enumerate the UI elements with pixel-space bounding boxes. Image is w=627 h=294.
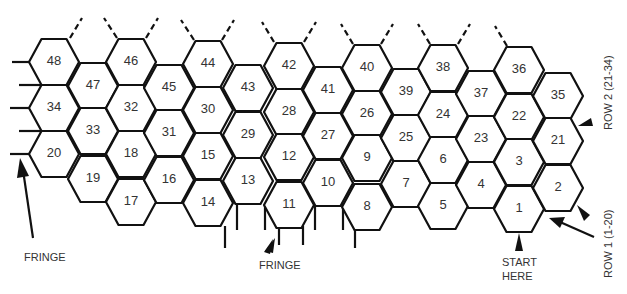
hexagon-number: 41 <box>321 81 335 96</box>
hexagon-number: 24 <box>436 106 450 121</box>
hexagon-29: 29 <box>223 112 273 158</box>
hexagon-number: 43 <box>241 79 255 94</box>
hexagon-36: 36 <box>494 47 544 93</box>
hexagon-number: 45 <box>162 79 176 94</box>
hexagon-number: 40 <box>360 59 374 74</box>
hexagon-layout-diagram: 4834204733194632181745311644301514432913… <box>0 0 627 294</box>
hexagon-number: 42 <box>282 57 296 72</box>
hexagon-number: 9 <box>363 149 370 164</box>
hexagon-number: 19 <box>86 170 100 185</box>
hexagon-number: 25 <box>399 129 413 144</box>
hexagon-number: 17 <box>124 193 138 208</box>
start-here-label-line2: HERE <box>502 270 533 282</box>
hexagon-number: 34 <box>47 99 61 114</box>
hexagon-number: 4 <box>477 176 484 191</box>
hexagon-number: 32 <box>124 99 138 114</box>
hexagon-number: 48 <box>47 53 61 68</box>
hexagon-number: 12 <box>282 148 296 163</box>
hexagon-44: 44 <box>183 41 233 87</box>
hexagon-number: 44 <box>201 55 215 70</box>
hexagon-number: 13 <box>241 172 255 187</box>
hexagon-number: 31 <box>162 124 176 139</box>
hexagon-number: 7 <box>402 175 409 190</box>
hexagon-number: 36 <box>512 61 526 76</box>
row1-marker <box>577 205 590 221</box>
hexagon-number: 14 <box>201 194 215 209</box>
row2-label: ROW 2 (21-34) <box>602 55 614 130</box>
hexagon-number: 3 <box>515 153 522 168</box>
hexagon-21: 21 <box>533 118 583 164</box>
hexagon-number: 28 <box>282 103 296 118</box>
hexagon-number: 39 <box>399 83 413 98</box>
hexagon-number: 11 <box>282 196 296 211</box>
row1-arrow <box>549 217 594 237</box>
hexagon-number: 33 <box>86 122 100 137</box>
hexagon-2: 2 <box>533 165 583 211</box>
hexagon-number: 8 <box>363 198 370 213</box>
fringe-left-label: FRINGE <box>24 251 66 263</box>
fringe-left-arrow <box>17 158 33 238</box>
start-here-label-line1: START <box>502 256 537 268</box>
hexagon-number: 46 <box>124 53 138 68</box>
hexagon-number: 26 <box>360 105 374 120</box>
hexagon-number: 37 <box>474 85 488 100</box>
hexagon-number: 15 <box>201 147 215 162</box>
hexagon-number: 10 <box>321 174 335 189</box>
hexagon-number: 47 <box>86 77 100 92</box>
row1-label: ROW 1 (1-20) <box>602 210 614 278</box>
hexagon-number: 23 <box>474 130 488 145</box>
hexagon-number: 16 <box>162 171 176 186</box>
hexagon-number: 38 <box>436 59 450 74</box>
hexagon-number: 35 <box>551 87 565 102</box>
hexagon-13: 13 <box>223 158 273 204</box>
fringe-bottom-label: FRINGE <box>259 259 301 271</box>
hexagon-number: 22 <box>512 108 526 123</box>
hexagon-number: 6 <box>439 151 446 166</box>
hexagon-number: 2 <box>554 179 561 194</box>
hexagon-number: 20 <box>47 145 61 160</box>
hexagon-35: 35 <box>533 73 583 119</box>
hexagon-number: 5 <box>439 197 446 212</box>
fringe-bottom-arrow <box>264 238 275 254</box>
hexagon-number: 21 <box>551 132 565 147</box>
hexagon-number: 1 <box>515 200 522 215</box>
hexagon-grid: 4834204733194632181745311644301514432913… <box>29 39 583 232</box>
hexagon-number: 18 <box>124 145 138 160</box>
start-here-arrow <box>515 233 523 251</box>
hexagon-number: 29 <box>241 126 255 141</box>
hexagon-number: 30 <box>201 101 215 116</box>
row2-marker <box>578 118 593 126</box>
hexagon-number: 27 <box>321 127 335 142</box>
hexagon-43: 43 <box>223 65 273 111</box>
